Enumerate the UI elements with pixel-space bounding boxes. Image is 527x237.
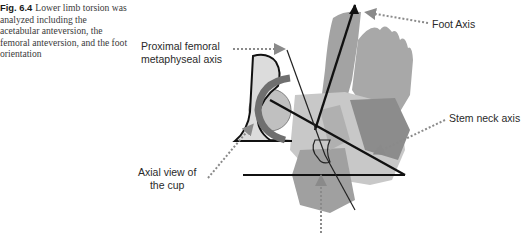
stem-neck-axis-label: Stem neck axis bbox=[449, 112, 520, 125]
lower-limb-torsion-diagram bbox=[0, 0, 527, 237]
foot-axis-callout bbox=[370, 13, 428, 23]
cup-label: Axial view of the cup bbox=[138, 166, 196, 192]
proximal-axis-label: Proximal femoral metaphyseal axis bbox=[141, 40, 222, 66]
foot-axis-label: Foot Axis bbox=[432, 18, 475, 31]
femur-bone-shapes bbox=[249, 89, 410, 213]
